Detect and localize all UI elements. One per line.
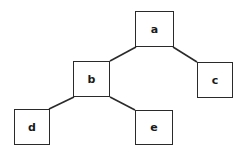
node-d: d [14, 109, 50, 145]
node-c: c [197, 62, 233, 98]
node-e-label: e [150, 122, 157, 133]
node-b-label: b [88, 74, 96, 85]
edge-b-d [49, 97, 74, 109]
tree-diagram: a b c d e [0, 0, 246, 156]
edge-b-e [110, 97, 135, 110]
node-d-label: d [28, 122, 36, 133]
node-a: a [135, 11, 174, 47]
edge-a-c [173, 47, 197, 62]
node-e: e [135, 110, 173, 145]
node-a-label: a [151, 24, 158, 35]
edge-a-b [110, 47, 136, 61]
node-c-label: c [212, 75, 219, 86]
node-b: b [73, 61, 110, 97]
